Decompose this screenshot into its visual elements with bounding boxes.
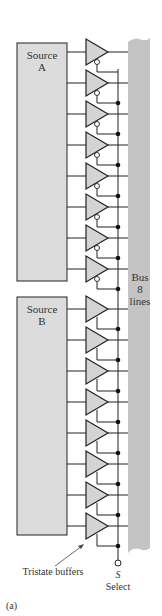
select-label: Select — [98, 581, 138, 593]
enable-wire — [97, 503, 118, 515]
enable-wire — [97, 379, 118, 391]
inverter-bubble-icon — [95, 122, 100, 127]
enable-wire — [97, 189, 118, 197]
enable-wire — [97, 282, 118, 290]
source-a-box — [17, 43, 67, 281]
select-terminal — [115, 560, 121, 566]
junction-dot — [116, 358, 121, 363]
junction-dot — [116, 389, 121, 394]
junction-dot — [116, 256, 121, 261]
annotation-arrow — [55, 546, 82, 566]
junction-dot — [116, 287, 121, 292]
figure-label: (a) — [6, 600, 26, 612]
junction-dot — [116, 163, 121, 168]
inverter-bubble-icon — [95, 215, 100, 220]
enable-wire — [97, 317, 118, 329]
junction-dot — [116, 482, 121, 487]
inverter-bubble-icon — [95, 60, 100, 65]
tristate-buffers-label: Tristate buffers — [18, 566, 88, 578]
inverter-bubble-icon — [95, 277, 100, 282]
junction-dot — [116, 225, 121, 230]
junction-dot — [116, 451, 121, 456]
source-b-box — [17, 297, 67, 535]
select-symbol: S — [108, 569, 128, 581]
enable-wire — [97, 158, 118, 166]
inverter-bubble-icon — [95, 184, 100, 189]
enable-wire — [97, 534, 118, 546]
source-a-label: Source A — [17, 49, 67, 73]
enable-wire — [97, 472, 118, 484]
junction-dot — [116, 420, 121, 425]
junction-dot — [116, 132, 121, 137]
inverter-bubble-icon — [95, 91, 100, 96]
enable-wire — [97, 65, 118, 73]
enable-wire — [97, 220, 118, 228]
junction-dot — [116, 513, 121, 518]
junction-dot — [116, 101, 121, 106]
inverter-bubble-icon — [95, 153, 100, 158]
junction-dot — [116, 194, 121, 199]
enable-wire — [97, 127, 118, 135]
junction-dot — [116, 544, 121, 549]
junction-dot — [116, 327, 121, 332]
enable-wire — [97, 96, 118, 104]
enable-wire — [97, 251, 118, 259]
inverter-bubble-icon — [95, 246, 100, 251]
bus-label: Bus 8 lines — [126, 271, 154, 307]
source-b-label: Source B — [17, 303, 67, 327]
enable-wire — [97, 441, 118, 453]
enable-wire — [97, 410, 118, 422]
enable-wire — [97, 348, 118, 360]
